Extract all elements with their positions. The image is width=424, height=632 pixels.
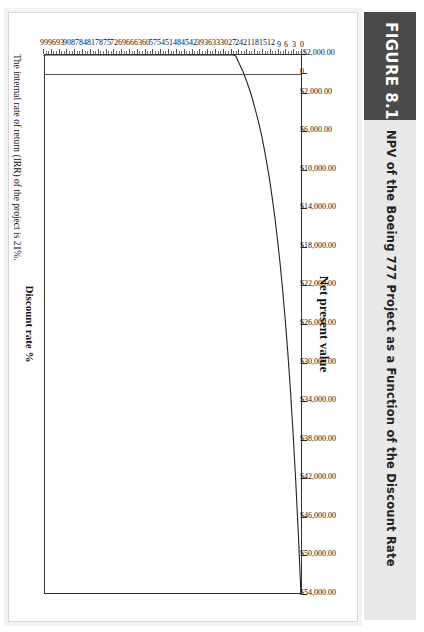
value-axis-tick-label: $46,000.00 (300, 511, 336, 520)
rate-axis-tick-label: 15 (259, 38, 267, 47)
rate-axis-tick (207, 49, 208, 54)
rate-axis-tick (176, 49, 177, 54)
rate-axis-tick-minor (205, 51, 206, 54)
category-axis-title: Discount rate % (24, 54, 36, 594)
rate-axis-tick-minor (181, 51, 182, 54)
rate-axis-tick (262, 49, 263, 54)
rate-axis-tick-minor (134, 51, 135, 54)
rate-axis-tick-label: 75 (103, 38, 111, 47)
rate-axis-tick-label: 36 (204, 38, 212, 47)
rate-axis-tick (223, 49, 224, 54)
rate-axis-tick-minor (265, 51, 266, 54)
rate-axis-tick-label: 42 (189, 38, 197, 47)
rate-axis-tick-minor (291, 51, 292, 54)
value-axis-tick-label: $34,000.00 (300, 395, 336, 404)
rate-axis-tick-label: 27 (228, 38, 236, 47)
value-axis-tick-label: -$2,000.00 (300, 48, 335, 57)
rate-axis-tick-label: 9 (277, 40, 281, 49)
rate-axis-tick-minor (166, 51, 167, 54)
rate-axis-tick (293, 49, 294, 54)
rate-axis-tick-minor (189, 51, 190, 54)
rate-axis-tick-minor (288, 51, 289, 54)
rate-axis-tick-minor (150, 51, 151, 54)
rate-axis-tick-minor (93, 51, 94, 54)
rate-axis-tick-minor (259, 51, 260, 54)
rate-axis-tick-label: 24 (235, 38, 243, 47)
rate-axis-tick-minor (126, 51, 127, 54)
rate-axis-tick-minor (95, 51, 96, 54)
rate-axis-tick-label: 90 (63, 38, 71, 47)
rate-axis-tick (43, 49, 44, 54)
rate-axis-tick-minor (77, 51, 78, 54)
rate-axis-tick-label: 96 (48, 38, 56, 47)
rate-axis-tick (238, 49, 239, 54)
rate-axis-tick-minor (85, 51, 86, 54)
rate-axis-tick-minor (139, 51, 140, 54)
value-axis-tick-label: $42,000.00 (300, 472, 336, 481)
rate-axis-tick-minor (69, 51, 70, 54)
rate-axis-tick-minor (103, 51, 104, 54)
rate-axis-tick (74, 49, 75, 54)
value-axis-tick-label: $30,000.00 (300, 357, 336, 366)
rate-axis-tick-minor (142, 51, 143, 54)
rate-axis-tick-minor (111, 51, 112, 54)
rate-axis-tick-minor (197, 51, 198, 54)
rate-axis-tick-label: 12 (267, 38, 275, 47)
rate-axis-tick-label: 30 (220, 38, 228, 47)
rate-axis-tick-minor (53, 51, 54, 54)
rate-axis-tick-label: 99 (40, 38, 48, 47)
rate-axis-tick-label: 69 (118, 38, 126, 47)
rate-axis-tick (121, 49, 122, 54)
rate-axis-tick (160, 49, 161, 54)
rate-axis-tick-minor (220, 51, 221, 54)
value-axis-tick-label: $18,000.00 (300, 241, 336, 250)
figure-note: The internal rate of return (IRR) of the… (12, 54, 22, 261)
rate-axis-tick (129, 49, 130, 54)
rate-axis-tick (231, 49, 232, 54)
rate-axis-tick-minor (194, 51, 195, 54)
rate-axis-tick (152, 49, 153, 54)
rate-axis-tick-label: 3 (292, 40, 296, 49)
rate-axis-tick-label: 57 (149, 38, 157, 47)
rate-axis-tick-minor (87, 51, 88, 54)
npv-curve (43, 55, 301, 595)
rate-axis-tick-minor (163, 51, 164, 54)
rate-axis-tick-minor (210, 51, 211, 54)
rate-axis-tick-minor (283, 51, 284, 54)
value-axis-tick-label: $10,000.00 (300, 164, 336, 173)
rate-axis-tick-label: 45 (181, 38, 189, 47)
value-axis-tick-label: $26,000.00 (300, 318, 336, 327)
rate-axis-tick-label: 51 (165, 38, 173, 47)
rate-axis-tick-minor (225, 51, 226, 54)
rate-axis-tick-minor (171, 51, 172, 54)
rate-axis-tick (215, 49, 216, 54)
rate-axis-tick-minor (244, 51, 245, 54)
rate-axis-tick-label: 54 (157, 38, 165, 47)
rate-axis-tick-label: 66 (126, 38, 134, 47)
rate-axis-tick (192, 49, 193, 54)
rate-axis-tick (137, 49, 138, 54)
rate-axis-tick-label: 63 (134, 38, 142, 47)
rate-axis-tick (168, 49, 169, 54)
rate-axis-tick-minor (64, 51, 65, 54)
rate-axis-tick-minor (132, 51, 133, 54)
rate-axis-tick (106, 49, 107, 54)
rate-axis-tick-minor (158, 51, 159, 54)
rate-axis-tick (254, 49, 255, 54)
rate-axis-tick-minor (48, 51, 49, 54)
rate-axis-tick-minor (236, 51, 237, 54)
rate-axis-tick (278, 49, 279, 54)
rate-axis-tick-label: 81 (87, 38, 95, 47)
rate-axis-tick-minor (155, 51, 156, 54)
rate-axis-tick-minor (212, 51, 213, 54)
rate-axis-tick (82, 49, 83, 54)
rate-axis-tick (270, 49, 271, 54)
rate-axis-tick-label: 6 (284, 40, 288, 49)
rate-axis-tick-minor (116, 51, 117, 54)
rate-axis-tick (59, 49, 60, 54)
rate-axis-tick-minor (298, 51, 299, 54)
rate-axis-tick-minor (252, 51, 253, 54)
rate-axis-tick-minor (173, 51, 174, 54)
rate-axis-tick-minor (275, 51, 276, 54)
value-axis-tick-label: $22,000.00 (300, 279, 336, 288)
